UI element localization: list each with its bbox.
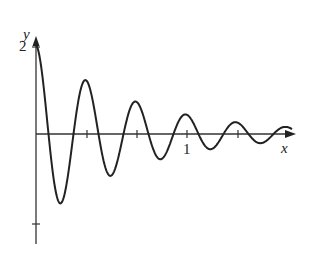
y-tick-label-2: 2: [19, 38, 27, 55]
damped-oscillation-curve: [36, 45, 292, 203]
plot-area: [0, 0, 313, 254]
x-axis-arrow-icon: [285, 130, 296, 138]
x-tick-label-1: 1: [183, 141, 191, 158]
x-axis-label: x: [281, 140, 288, 157]
y-axis-arrow-icon: [33, 36, 40, 46]
